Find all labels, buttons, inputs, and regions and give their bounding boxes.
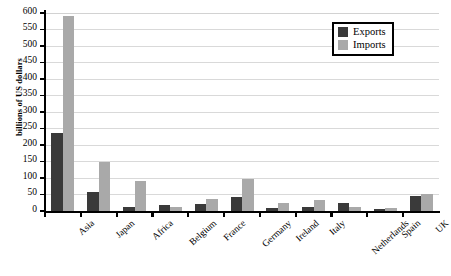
x-label-belgium: Belgium [188,218,219,247]
x-tick [151,211,153,217]
x-label-africa: Africa [150,218,175,242]
y-tick-label: 200 [23,138,37,149]
bar-exports [374,209,386,211]
y-tick-label: 500 [23,39,37,50]
legend-swatch-imports-icon [338,40,348,50]
y-tick-label: 100 [23,171,37,182]
x-label-italy: Italy [327,218,347,237]
bar-group [87,13,110,211]
bar-exports [123,207,135,211]
x-label-germany: Germany [260,218,293,249]
x-tick [330,211,332,217]
y-axis-line [44,10,46,214]
bar-exports [51,133,63,211]
bar-imports [135,181,147,211]
y-tick-label: 300 [23,105,37,116]
bar-imports [349,207,361,211]
bar-exports [159,205,171,211]
bar-imports [314,200,326,211]
x-label-france: France [222,218,248,243]
bar-imports [278,203,290,211]
x-tick [402,211,404,217]
bar-group [123,13,146,211]
x-tick [116,211,118,217]
y-tick-label: 150 [23,154,37,165]
x-tick [44,211,46,217]
x-label-uk: UK [434,218,451,235]
bar-exports [87,192,99,211]
x-tick [223,211,225,217]
bar-imports [170,207,182,211]
bar-group [266,13,289,211]
x-tick [366,211,368,217]
bar-imports [242,179,254,211]
y-tick-label: 550 [23,22,37,33]
y-tick-label: 350 [23,88,37,99]
bar-group [51,13,74,211]
chart-legend: Exports Imports [332,22,394,56]
y-tick-label: 450 [23,55,37,66]
legend-item-exports: Exports [338,26,386,38]
legend-item-imports: Imports [338,39,386,51]
x-axis-line [44,211,440,213]
legend-label-exports: Exports [353,26,386,38]
x-tick [295,211,297,217]
y-tick-label: 0 [32,204,37,215]
bar-group [302,13,325,211]
x-label-ireland: Ireland [294,218,321,243]
x-tick [187,211,189,217]
bar-exports [338,203,350,211]
bar-group [159,13,182,211]
bar-group [410,13,433,211]
bar-exports [195,204,207,211]
x-tick [259,211,261,217]
y-tick-label: 600 [23,6,37,17]
y-tick-label: 250 [23,121,37,132]
bar-imports [421,194,433,211]
bar-group [231,13,254,211]
bar-group [195,13,218,211]
legend-label-imports: Imports [353,39,386,51]
x-tick [80,211,82,217]
x-label-asia: Asia [76,218,96,237]
bar-exports [231,197,243,211]
bar-imports [385,208,397,211]
bar-imports [206,199,218,211]
y-tick-label: 50 [28,187,38,198]
bar-imports [63,16,75,211]
bar-exports [266,208,278,211]
bar-exports [302,207,314,211]
y-tick-label: 400 [23,72,37,83]
legend-swatch-exports-icon [338,27,348,37]
bar-imports [99,162,111,211]
x-label-japan: Japan [113,218,136,240]
bar-exports [410,196,422,211]
